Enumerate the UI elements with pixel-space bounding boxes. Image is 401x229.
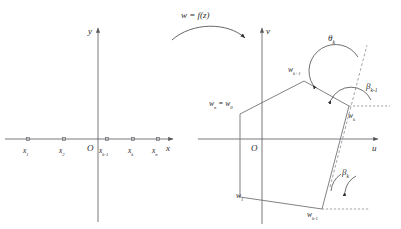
point-label-xn: xn <box>152 147 158 157</box>
z-plane-x-axis-label: x <box>166 144 170 153</box>
mapping-function-label: w = f(z) <box>181 11 210 20</box>
beta-k-1-arc <box>331 87 371 100</box>
vertex-label-wk-1: wk-1 <box>307 211 318 221</box>
z-plane-origin-label: O <box>87 144 94 153</box>
angle-label-beta-k-1: βk-1 <box>366 82 378 93</box>
vertex-label-w1: w1 <box>236 192 243 202</box>
z-plane-y-axis-label: y <box>88 27 92 36</box>
w-plane-v-axis-label: v <box>266 27 270 36</box>
schwarz-christoffel-diagram: w = f(z) y x O x1 x2 xk-1 xk xn v u O wn… <box>0 0 401 229</box>
w-plane-origin-label: O <box>251 144 258 153</box>
point-label-xk: xk <box>128 147 133 157</box>
diagram-canvas <box>0 0 401 229</box>
mapping-arrow <box>172 26 245 40</box>
angle-label-theta-k: θk <box>328 34 335 45</box>
angle-label-beta-k: βk <box>342 168 349 179</box>
point-label-xk-1: xk-1 <box>99 147 108 157</box>
w-plane-u-axis-label: u <box>372 144 377 153</box>
w-plane-axes <box>198 28 378 224</box>
point-label-x1: x1 <box>23 147 29 157</box>
theta-k-arc <box>309 44 358 85</box>
vertex-label-wn-w0: wn = w0 <box>209 100 233 110</box>
angle-arcs <box>309 44 371 192</box>
vertex-label-wk+1: wk+1 <box>288 66 301 76</box>
point-label-x2: x2 <box>59 147 65 157</box>
z-plane-axes <box>5 28 173 222</box>
vertex-label-wk: wk <box>348 112 355 122</box>
